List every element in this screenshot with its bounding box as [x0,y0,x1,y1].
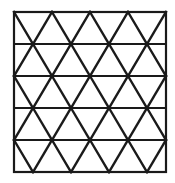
triangular-tessellation-figure [0,0,175,183]
figure-root [0,0,175,183]
figure-background [0,0,175,183]
